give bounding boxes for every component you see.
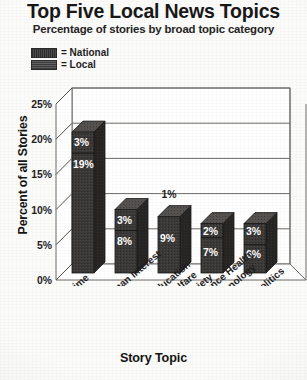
legend-item-local: = Local	[31, 59, 109, 70]
legend-label-national: = National	[61, 48, 109, 58]
chart-y-tick-labels: 25% 20% 15% 10% 5% 0%	[31, 99, 52, 286]
y-tick-10: 10%	[31, 205, 52, 216]
legend-item-national: = National	[31, 47, 109, 58]
bar-group-crime[interactable]: 3% 19%	[72, 121, 105, 273]
bar-label-crime-national: 3%	[74, 137, 89, 148]
bar-label-science-local: 7%	[203, 247, 218, 258]
chart-legend: = National = Local	[31, 47, 109, 71]
bar-label-human-interest-national: 3%	[117, 215, 132, 226]
x-axis-title: Story Topic	[0, 351, 307, 365]
chart-title: Top Five Local News Topics	[0, 1, 307, 22]
y-axis-title: Percent of all Stories	[16, 100, 30, 250]
y-tick-15: 15%	[31, 169, 52, 180]
y-tick-25: 25%	[31, 99, 52, 110]
chart-plot-area: 25% 20% 15% 10% 5% 0% 3% 19% 3% 8%	[0, 86, 307, 286]
chart-subtitle: Percentage of stories by broad topic cat…	[0, 23, 307, 36]
y-tick-0: 0%	[37, 275, 52, 286]
bar-label-science-national: 2%	[203, 226, 218, 237]
chart-svg: 25% 20% 15% 10% 5% 0% 3% 19% 3% 8%	[0, 86, 307, 286]
y-tick-5: 5%	[37, 240, 52, 251]
legend-swatch-national	[31, 48, 57, 58]
bar-label-politics-national: 3%	[246, 226, 261, 237]
chart-header: Top Five Local News Topics Percentage of…	[0, 0, 307, 36]
legend-swatch-local	[31, 60, 57, 70]
bar-label-human-interest-local: 8%	[117, 236, 132, 247]
legend-label-local: = Local	[61, 60, 96, 70]
bar-label-education-local: 9%	[160, 233, 175, 244]
bar-label-crime-local: 19%	[73, 159, 94, 170]
y-tick-20: 20%	[31, 134, 52, 145]
bar-label-education-national: 1%	[161, 189, 176, 200]
